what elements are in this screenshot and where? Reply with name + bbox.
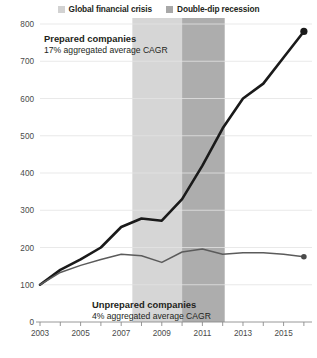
chart-legend: Global financial crisis Double-dip reces… bbox=[0, 0, 317, 18]
legend-item-label: Global financial crisis bbox=[69, 4, 152, 14]
square-swatch-icon bbox=[166, 6, 173, 13]
legend-item-label: Double-dip recession bbox=[177, 4, 259, 14]
annotation-subtitle: 17% aggregated average CAGR bbox=[44, 45, 168, 56]
x-axis-tick-label: 2005 bbox=[71, 329, 90, 338]
square-swatch-icon bbox=[58, 6, 65, 13]
x-axis-tick-label: 2003 bbox=[31, 329, 50, 338]
x-axis-tick-label: 2007 bbox=[112, 329, 131, 338]
y-axis-tick-label: 400 bbox=[20, 169, 34, 178]
shaded-band-double-dip-recession bbox=[182, 18, 225, 322]
shaded-band-global-financial-crisis bbox=[132, 18, 182, 322]
annotation-prepared-companies: Prepared companies 17% aggregated averag… bbox=[44, 33, 168, 56]
y-axis-tick-label: 600 bbox=[20, 95, 34, 104]
annotation-subtitle: 4% aggregated average CAGR bbox=[92, 311, 211, 322]
y-axis-tick-label: 800 bbox=[20, 20, 34, 29]
x-axis-tick-label: 2011 bbox=[194, 329, 212, 338]
annotation-title: Prepared companies bbox=[44, 33, 168, 45]
x-axis-tick-label: 2013 bbox=[234, 329, 253, 338]
y-axis-tick-label: 700 bbox=[20, 57, 34, 66]
legend-item-global-financial-crisis: Global financial crisis bbox=[58, 4, 152, 14]
y-axis-tick-label: 0 bbox=[29, 318, 34, 327]
annotation-title: Unprepared companies bbox=[92, 299, 211, 311]
y-axis-tick-label: 500 bbox=[20, 132, 34, 141]
series-endpoint-prepared bbox=[300, 28, 307, 35]
x-axis-tick-label: 2015 bbox=[274, 329, 293, 338]
y-axis-tick-label: 100 bbox=[20, 281, 34, 290]
legend-item-double-dip-recession: Double-dip recession bbox=[166, 4, 259, 14]
series-endpoint-unprepared bbox=[301, 254, 307, 260]
chart-container: Global financial crisis Double-dip reces… bbox=[0, 0, 317, 358]
x-axis-tick-label: 2009 bbox=[153, 329, 172, 338]
annotation-unprepared-companies: Unprepared companies 4% aggregated avera… bbox=[92, 299, 211, 322]
y-axis-tick-label: 200 bbox=[20, 244, 34, 253]
y-axis-tick-label: 300 bbox=[20, 206, 34, 215]
